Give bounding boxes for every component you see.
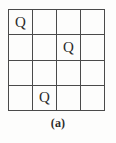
board-cell-r3c3[interactable] — [57, 61, 81, 86]
board-cell-r4c3[interactable] — [57, 86, 81, 111]
board-cell-r3c4[interactable] — [81, 61, 105, 86]
board-cell-r2c4[interactable] — [81, 35, 105, 60]
board-cell-r1c4[interactable] — [81, 10, 105, 35]
board-cell-r2c2[interactable] — [33, 35, 57, 60]
board-cell-r4c4[interactable] — [81, 86, 105, 111]
queen-piece: Q — [63, 39, 74, 54]
board-cell-r2c1[interactable] — [9, 35, 33, 60]
board-cell-r1c3[interactable] — [57, 10, 81, 35]
board-cell-r4c1[interactable] — [9, 86, 33, 111]
queens-figure: Q Q — [0, 0, 116, 143]
figure-caption: (a) — [0, 116, 116, 131]
queen-piece: Q — [15, 14, 26, 29]
board-cell-r3c1[interactable] — [9, 61, 33, 86]
board-cell-r2c3[interactable]: Q — [57, 35, 81, 60]
chessboard-grid: Q Q — [8, 9, 105, 111]
board-cell-r3c2[interactable] — [33, 61, 57, 86]
queen-piece: Q — [39, 90, 50, 105]
board-cell-r4c2[interactable]: Q — [33, 86, 57, 111]
board-cell-r1c1[interactable]: Q — [9, 10, 33, 35]
board-cell-r1c2[interactable] — [33, 10, 57, 35]
